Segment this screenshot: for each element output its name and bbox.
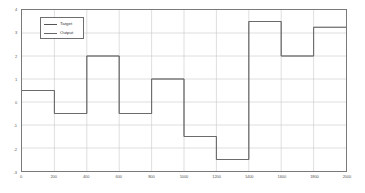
legend-line-icon <box>44 24 57 25</box>
legend-line-icon <box>44 33 57 34</box>
legend-item-output[interactable]: Output <box>43 29 81 38</box>
y-tick-label: -2 <box>14 146 17 151</box>
legend-item-label: Target <box>60 22 72 26</box>
x-tick-label: 0 <box>20 174 22 179</box>
y-axis-tick-labels: -3-2-101234 <box>0 9 19 172</box>
y-tick-label: 4 <box>15 7 17 12</box>
x-tick-label: 1200 <box>212 174 221 179</box>
y-tick-label: -3 <box>14 170 17 175</box>
legend-item-target[interactable]: Target <box>43 20 81 29</box>
y-tick-label: 2 <box>15 53 17 58</box>
y-tick-label: 1 <box>15 76 17 81</box>
figure-canvas: -3-2-101234 0200400600800100012001400160… <box>0 0 365 193</box>
x-tick-label: 2000 <box>343 174 352 179</box>
x-axis-tick-labels: 0200400600800100012001400160018002000 <box>21 173 347 185</box>
x-tick-label: 1000 <box>180 174 189 179</box>
y-tick-label: 0 <box>15 100 17 105</box>
y-tick-label: 3 <box>15 30 17 35</box>
x-tick-label: 800 <box>148 174 154 179</box>
x-tick-label: 600 <box>116 174 122 179</box>
chart-legend[interactable]: Target Output <box>40 17 84 39</box>
legend-item-label: Output <box>60 31 73 35</box>
y-tick-label: -1 <box>14 123 17 128</box>
x-tick-label: 400 <box>83 174 89 179</box>
x-tick-label: 200 <box>50 174 56 179</box>
x-tick-label: 1800 <box>310 174 319 179</box>
x-tick-label: 1400 <box>245 174 254 179</box>
x-tick-label: 1600 <box>278 174 287 179</box>
